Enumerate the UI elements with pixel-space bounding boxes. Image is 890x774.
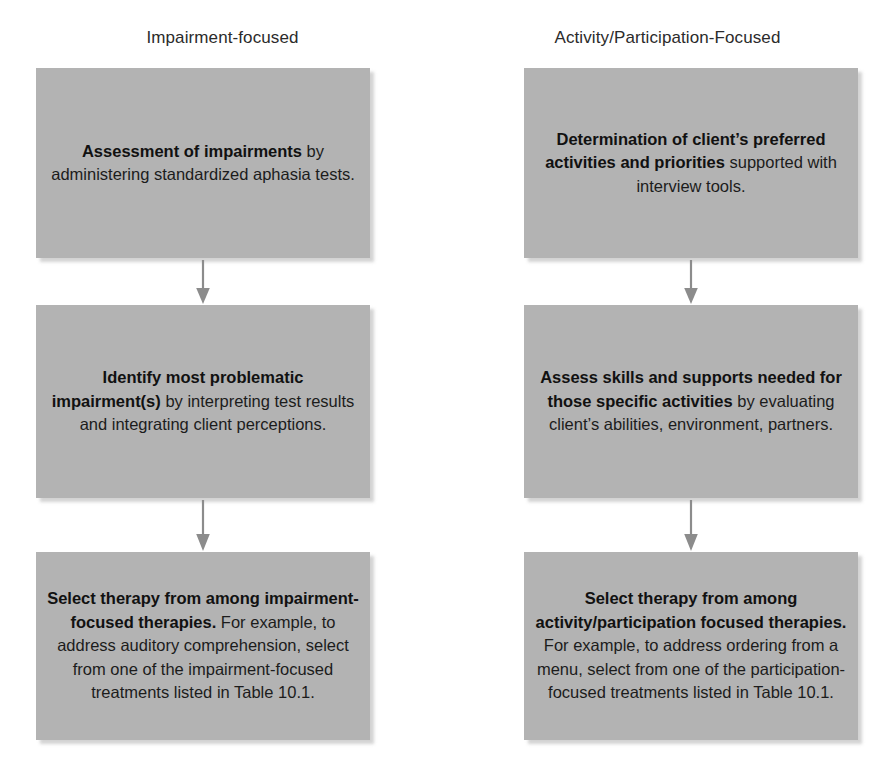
arrow-down-icon bbox=[192, 500, 214, 551]
node-determination-of-client-preferred-activities: Determination of client’s preferred acti… bbox=[524, 68, 858, 258]
node-text: Determination of client’s preferred acti… bbox=[534, 128, 848, 199]
node-text: Identify most problematic impairment(s) … bbox=[46, 366, 360, 437]
node-assessment-of-impairments: Assessment of impairments by administeri… bbox=[36, 68, 370, 258]
arrow-down-icon bbox=[680, 260, 702, 304]
node-text: Select therapy from among activity/parti… bbox=[534, 587, 848, 705]
node-text: Assess skills and supports needed for th… bbox=[534, 366, 848, 437]
arrow-down-icon bbox=[192, 260, 214, 304]
column-header-impairment-focused: Impairment-focused bbox=[0, 27, 445, 49]
column-impairment-focused: Impairment-focused Assessment of impairm… bbox=[0, 0, 445, 774]
node-bold-text: Select therapy from among activity/parti… bbox=[536, 589, 847, 631]
node-bold-text: Assessment of impairments bbox=[82, 142, 302, 160]
column-activity-participation-focused: Activity/Participation-Focused Determina… bbox=[445, 0, 890, 774]
node-select-impairment-focused-therapy: Select therapy from among impairment-foc… bbox=[36, 552, 370, 740]
node-body-text: For example, to address ordering from a … bbox=[537, 636, 845, 701]
node-text: Select therapy from among impairment-foc… bbox=[46, 587, 360, 705]
arrow-down-icon bbox=[680, 500, 702, 551]
node-select-activity-participation-focused-therapy: Select therapy from among activity/parti… bbox=[524, 552, 858, 740]
column-header-activity-participation-focused: Activity/Participation-Focused bbox=[445, 27, 890, 49]
flowchart: Impairment-focused Assessment of impairm… bbox=[0, 0, 890, 774]
node-identify-most-problematic-impairment: Identify most problematic impairment(s) … bbox=[36, 305, 370, 498]
node-assess-skills-and-supports: Assess skills and supports needed for th… bbox=[524, 305, 858, 498]
node-text: Assessment of impairments by administeri… bbox=[46, 140, 360, 187]
